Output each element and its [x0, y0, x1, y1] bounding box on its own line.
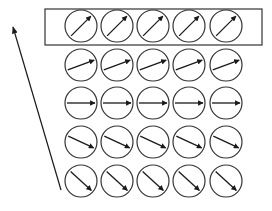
dial-arrow-icon [176, 60, 202, 70]
dial-r2-c2 [101, 49, 133, 81]
dial-arrow-icon [216, 172, 237, 191]
dial-r5-c4 [173, 165, 205, 197]
dial-arrow-icon [176, 136, 201, 148]
dial-r5-c5 [210, 165, 242, 197]
dial-r4-c4 [173, 126, 205, 158]
dial-arrow-icon [216, 16, 236, 36]
dial-arrow-icon [104, 60, 130, 70]
side-arrow-icon [13, 27, 61, 190]
dial-r2-c4 [173, 49, 205, 81]
top-row-box [45, 9, 262, 45]
dial-arrow-icon [143, 172, 164, 191]
dial-arrow-icon [104, 136, 129, 148]
dial-r2-c1 [65, 49, 97, 81]
dial-arrow-icon [107, 16, 127, 36]
dial-r1-c5 [210, 10, 242, 42]
dial-diagram [0, 0, 272, 211]
dial-r3-c1 [65, 87, 97, 119]
dial-r4-c2 [101, 126, 133, 158]
dial-r5-c2 [101, 165, 133, 197]
dial-r5-c3 [137, 165, 169, 197]
dial-r3-c2 [101, 87, 133, 119]
dial-arrow-icon [71, 172, 92, 191]
dial-r2-c3 [137, 49, 169, 81]
dial-r5-c1 [65, 165, 97, 197]
dial-r1-c2 [101, 10, 133, 42]
dial-r4-c1 [65, 126, 97, 158]
dial-grid [65, 10, 242, 197]
dial-r4-c5 [210, 126, 242, 158]
dial-arrow-icon [107, 172, 128, 191]
dial-r1-c4 [173, 10, 205, 42]
dial-arrow-icon [140, 60, 166, 70]
dial-arrow-icon [143, 16, 163, 36]
dial-r1-c3 [137, 10, 169, 42]
dial-arrow-icon [213, 60, 239, 70]
dial-arrow-icon [213, 136, 238, 148]
dial-r3-c3 [137, 87, 169, 119]
dial-arrow-icon [71, 16, 91, 36]
dial-arrow-icon [140, 136, 165, 148]
dial-arrow-icon [179, 172, 200, 191]
dial-r3-c5 [210, 87, 242, 119]
dial-arrow-icon [68, 60, 94, 70]
dial-r1-c1 [65, 10, 97, 42]
dial-r2-c5 [210, 49, 242, 81]
dial-r3-c4 [173, 87, 205, 119]
dial-arrow-icon [179, 16, 199, 36]
dial-r4-c3 [137, 126, 169, 158]
dial-arrow-icon [68, 136, 93, 148]
